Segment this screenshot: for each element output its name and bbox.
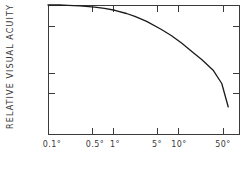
y-tick-mark [233, 93, 239, 94]
x-tick-mark [157, 128, 158, 134]
y-axis-title: RELATIVE VISUAL ACUITY [6, 1, 15, 133]
x-tick-label: 1° [110, 140, 120, 149]
x-tick-mark [92, 128, 93, 134]
x-tick-label: 0.5° [86, 140, 105, 149]
x-tick-label: 0.1° [43, 140, 62, 149]
plot-area [48, 5, 240, 135]
x-tick-mark [178, 6, 179, 12]
x-tick-label: 5° [152, 140, 162, 149]
chart-figure: RELATIVE VISUAL ACUITY 1.0 0.5 0.1 0.05 … [0, 0, 247, 171]
y-tick-mark [49, 26, 55, 27]
x-tick-mark [113, 128, 114, 134]
y-tick-mark [233, 73, 239, 74]
x-tick-mark [157, 6, 158, 12]
x-tick-label: 10° [171, 140, 187, 149]
x-tick-label: 50° [215, 140, 231, 149]
y-tick-mark [49, 73, 55, 74]
x-tick-mark [178, 128, 179, 134]
x-tick-mark [113, 6, 114, 12]
y-tick-mark [49, 93, 55, 94]
x-tick-mark [223, 6, 224, 12]
x-tick-mark [92, 6, 93, 12]
x-tick-mark [223, 128, 224, 134]
y-tick-mark [233, 26, 239, 27]
